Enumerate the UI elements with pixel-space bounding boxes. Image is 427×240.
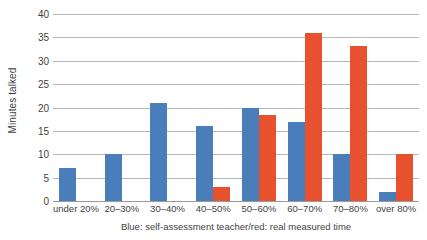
bars-layer xyxy=(53,14,419,201)
bar-group xyxy=(282,14,328,201)
x-axis-tick-label: 20–30% xyxy=(99,203,145,217)
bar-blue xyxy=(105,154,122,201)
bar-group xyxy=(373,14,419,201)
gridline xyxy=(53,201,419,202)
bar-blue xyxy=(288,122,305,201)
y-axis-tick-labels: 0510152025303540 xyxy=(26,14,52,201)
bar-group xyxy=(190,14,236,201)
bar-group xyxy=(53,14,99,201)
y-axis-tick-label: 0 xyxy=(43,196,49,207)
bar-blue xyxy=(196,126,213,201)
bar-group xyxy=(236,14,282,201)
bar-red xyxy=(259,115,276,201)
y-axis-title-label: Minutes talked xyxy=(8,67,19,133)
bar-blue xyxy=(150,103,167,201)
y-axis-tick-label: 30 xyxy=(38,55,49,66)
y-axis-tick-label: 25 xyxy=(38,79,49,90)
bar-chart: Minutes talked 0510152025303540 under 20… xyxy=(0,0,427,240)
x-axis-caption: Blue: self-assessment teacher/red: real … xyxy=(53,221,419,232)
bar-blue xyxy=(59,168,76,201)
x-axis-tick-label: 50–60% xyxy=(236,203,282,217)
bar-blue xyxy=(242,108,259,202)
bar-red xyxy=(305,33,322,201)
x-axis-tick-labels: under 20%20–30%30–40%40–50%50–60%60–70%7… xyxy=(53,203,419,217)
y-axis-tick-label: 35 xyxy=(38,32,49,43)
bar-group xyxy=(99,14,145,201)
y-axis-tick-label: 40 xyxy=(38,9,49,20)
x-axis-tick-label: under 20% xyxy=(53,203,99,217)
y-axis-title: Minutes talked xyxy=(0,0,26,200)
y-axis-tick-label: 20 xyxy=(38,102,49,113)
bar-red xyxy=(396,154,413,201)
bar-red xyxy=(350,46,367,201)
y-axis-tick-label: 5 xyxy=(43,172,49,183)
x-axis-tick-label: 70–80% xyxy=(328,203,374,217)
bar-red xyxy=(213,187,230,201)
bar-group xyxy=(328,14,374,201)
y-axis-tick-label: 10 xyxy=(38,149,49,160)
bar-blue xyxy=(379,192,396,201)
plot-area xyxy=(53,14,419,201)
x-axis-tick-label: 60–70% xyxy=(282,203,328,217)
bar-group xyxy=(145,14,191,201)
bar-blue xyxy=(333,154,350,201)
x-axis-tick-label: 30–40% xyxy=(145,203,191,217)
x-axis-tick-label: over 80% xyxy=(373,203,419,217)
x-axis-tick-label: 40–50% xyxy=(190,203,236,217)
y-axis-tick-label: 15 xyxy=(38,125,49,136)
